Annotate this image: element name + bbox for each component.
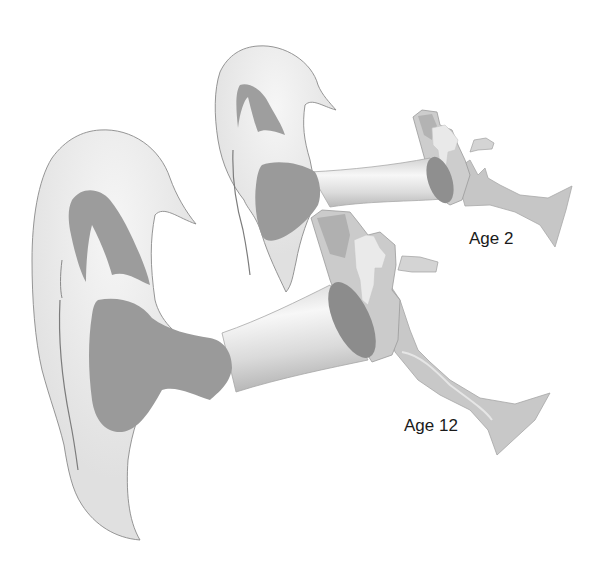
concha-age-2 (255, 162, 320, 240)
eustachian-tube-age-12 (375, 288, 550, 455)
label-age-2: Age 2 (469, 229, 513, 249)
label-age-12: Age 12 (404, 416, 458, 436)
stapes-age-12 (398, 256, 438, 272)
stapes-age-2 (470, 138, 494, 152)
ear-comparison-illustration (0, 0, 610, 569)
